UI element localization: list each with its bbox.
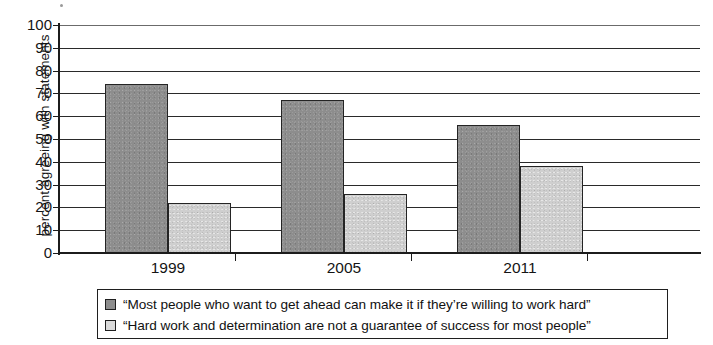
bar-1999-series2 — [168, 203, 231, 253]
bar-2005-series1 — [281, 100, 344, 253]
y-tick-label: 40 — [8, 154, 52, 169]
y-tick-label: 0 — [8, 245, 52, 260]
x-axis-label-1999: 1999 — [108, 259, 228, 277]
x-axis-tick — [235, 252, 236, 261]
y-axis-tick-labels: 1009080706050403020100 — [0, 0, 52, 345]
x-axis-label-2005: 2005 — [284, 259, 404, 277]
y-tick-label: 50 — [8, 131, 52, 146]
legend-label: “Most people who want to get ahead can m… — [123, 297, 591, 312]
gridline-100 — [59, 25, 700, 26]
bar-2005-series2 — [344, 194, 407, 253]
x-axis-label-2011: 2011 — [460, 259, 580, 277]
y-axis-line — [58, 23, 60, 255]
legend-swatch-icon — [105, 299, 116, 310]
scan-artifact-speck — [60, 4, 63, 7]
y-tick-label: 70 — [8, 85, 52, 100]
y-tick-label: 90 — [8, 40, 52, 55]
legend-label: “Hard work and determination are not a g… — [123, 318, 591, 333]
x-axis-line — [58, 252, 701, 254]
plot-area — [59, 25, 700, 253]
legend-swatch-icon — [105, 320, 116, 331]
y-tick-label: 100 — [8, 17, 52, 32]
y-tick-label: 30 — [8, 177, 52, 192]
x-axis-tick — [587, 252, 588, 261]
bar-2011-series1 — [457, 125, 520, 253]
bar-2011-series2 — [520, 166, 583, 253]
bar-chart: percent agreeing with statements 1009080… — [0, 0, 713, 345]
bar-1999-series1 — [105, 84, 168, 253]
legend-item-1: “Most people who want to get ahead can m… — [105, 294, 667, 315]
chart-legend: “Most people who want to get ahead can m… — [97, 289, 668, 339]
x-axis-tick — [411, 252, 412, 261]
legend-item-2: “Hard work and determination are not a g… — [105, 315, 667, 336]
y-tick-label: 20 — [8, 199, 52, 214]
y-tick-label: 10 — [8, 222, 52, 237]
gridline-80 — [59, 71, 700, 72]
y-tick-label: 80 — [8, 63, 52, 78]
y-tick-label: 60 — [8, 108, 52, 123]
gridline-90 — [59, 48, 700, 49]
